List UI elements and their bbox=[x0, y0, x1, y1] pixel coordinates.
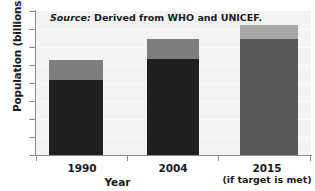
y-tick-6 bbox=[29, 47, 36, 48]
bar-2015 bbox=[240, 25, 298, 156]
source-note-prefix: Source: bbox=[50, 12, 91, 23]
y-tick-5 bbox=[29, 65, 36, 66]
x-tick-start bbox=[36, 155, 37, 161]
y-tick-7 bbox=[29, 29, 36, 30]
x-tick-end bbox=[310, 155, 311, 161]
bar-1990-upper-segment bbox=[49, 60, 103, 81]
x-tick-label-2004: 2004 bbox=[131, 163, 215, 174]
plot-area bbox=[36, 11, 311, 155]
bar-2015-upper-segment bbox=[240, 25, 298, 39]
x-tick-2 bbox=[218, 155, 219, 161]
y-tick-0 bbox=[29, 155, 36, 156]
y-tick-1 bbox=[29, 137, 36, 138]
x-tick-label-2015-main: 2015 bbox=[252, 162, 281, 174]
chart-container: Population (billions) Source: Derived fr… bbox=[0, 0, 315, 191]
x-tick-label-1990: 1990 bbox=[40, 163, 124, 174]
y-tick-3 bbox=[29, 101, 36, 102]
x-tick-label-2004-main: 2004 bbox=[158, 162, 187, 174]
bar-2004-upper-segment bbox=[147, 39, 199, 59]
y-axis-title: Population (billions) bbox=[11, 0, 23, 129]
y-tick-2 bbox=[29, 119, 36, 120]
x-tick-1 bbox=[127, 155, 128, 161]
bar-2004 bbox=[147, 39, 199, 155]
x-tick-label-1990-main: 1990 bbox=[67, 162, 96, 174]
x-axis-line bbox=[29, 155, 312, 156]
source-note: Source: Derived from WHO and UNICEF. bbox=[50, 12, 262, 23]
bar-2015-lower-segment bbox=[240, 39, 298, 155]
bar-1990-lower-segment bbox=[49, 80, 103, 155]
y-tick-8 bbox=[29, 11, 36, 12]
bar-1990 bbox=[49, 60, 103, 155]
source-note-text: Derived from WHO and UNICEF. bbox=[91, 12, 262, 23]
x-axis-title: Year bbox=[0, 176, 275, 188]
bar-2004-lower-segment bbox=[147, 59, 199, 155]
y-tick-4 bbox=[29, 83, 36, 84]
